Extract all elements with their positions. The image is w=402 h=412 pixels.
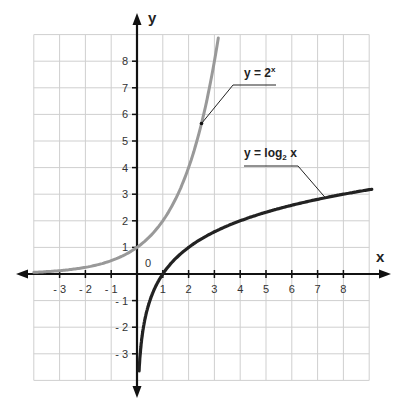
x-tick-label: 5	[263, 283, 269, 295]
x-tick-label: 6	[289, 283, 295, 295]
y-tick-label: - 1	[115, 295, 128, 307]
log-label: y = log2 x	[244, 146, 297, 162]
y-tick-label: - 3	[115, 348, 128, 360]
exp-leader-dot	[200, 122, 204, 126]
y-tick-label: 7	[122, 82, 128, 94]
y-axis-down-arrow-icon	[133, 386, 142, 398]
y-tick-label: 2	[122, 215, 128, 227]
curve-logarithm	[139, 189, 372, 371]
exp-label-sup: x	[271, 65, 276, 74]
curve-exponential	[34, 38, 219, 272]
x-tick-label: - 3	[53, 283, 66, 295]
x-axis-left-arrow-icon	[16, 270, 28, 279]
log-label-tail: x	[287, 146, 297, 160]
y-tick-label: 4	[122, 162, 128, 174]
x-axis-right-arrow-icon	[379, 270, 391, 279]
y-tick-label: 6	[122, 108, 128, 120]
y-tick-label: 5	[122, 135, 128, 147]
ticks: - 3- 2- 11234567887654321- 1- 2- 3	[53, 55, 346, 360]
y-tick-label: 1	[122, 241, 128, 253]
x-tick-label: 8	[340, 283, 346, 295]
x-tick-label: 7	[315, 283, 321, 295]
x-tick-label: - 2	[79, 283, 92, 295]
y-tick-label: - 2	[115, 321, 128, 333]
y-axis-up-arrow-icon	[133, 13, 142, 25]
x-tick-label: 3	[211, 283, 217, 295]
y-tick-label: 3	[122, 188, 128, 200]
axes	[16, 13, 391, 398]
x-tick-label: 1	[160, 283, 166, 295]
grid	[34, 35, 369, 381]
x-tick-label: - 1	[105, 283, 118, 295]
y-tick-label: 8	[122, 55, 128, 67]
exp-leader-line	[202, 85, 277, 124]
y-axis-label: y	[148, 9, 157, 26]
x-axis-label: x	[376, 248, 385, 265]
x-tick-label: 2	[186, 283, 192, 295]
exp-label: y = 2x	[244, 65, 276, 80]
log-leader-line	[244, 166, 325, 198]
exp-label-main: y = 2	[244, 66, 271, 80]
origin-label: 0	[145, 257, 151, 269]
function-graph: - 3- 2- 11234567887654321- 1- 2- 3 y x 0…	[0, 0, 402, 412]
log-label-main: y = log	[244, 146, 282, 160]
x-tick-label: 4	[237, 283, 243, 295]
